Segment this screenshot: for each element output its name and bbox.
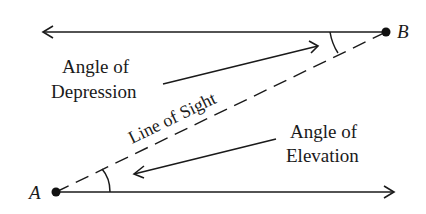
top-horizontal-ray xyxy=(43,26,386,38)
point-b-label: B xyxy=(397,21,409,42)
line-of-sight-label: Line of Sight xyxy=(125,88,219,147)
depression-label-line2: Depression xyxy=(51,81,137,102)
elevation-label-line1: Angle of xyxy=(290,121,358,142)
point-a-dot xyxy=(52,188,61,197)
depression-label-line1: Angle of xyxy=(62,56,130,77)
bottom-horizontal-ray xyxy=(56,186,394,198)
depression-pointer-arrow xyxy=(163,41,318,84)
point-b-dot xyxy=(382,28,391,37)
elevation-label-line2: Elevation xyxy=(286,145,359,166)
elevation-angle-arc xyxy=(102,169,110,192)
point-a-label: A xyxy=(27,182,41,203)
depression-angle-arc xyxy=(330,32,338,53)
elevation-pointer-arrow xyxy=(134,139,276,178)
elevation-depression-diagram: A B Angle of Depression Angle of Elevati… xyxy=(0,0,426,214)
